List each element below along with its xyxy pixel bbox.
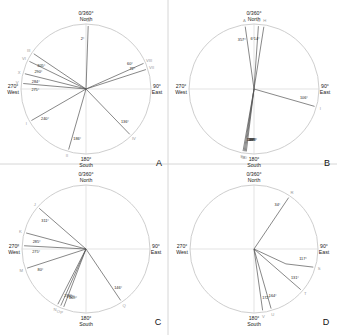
vector-line — [31, 89, 86, 121]
south-label: South — [247, 321, 261, 327]
compass-panel-a: 0/360°North180°South90°East270°WestAIX2°… — [7, 10, 163, 168]
vector-id-label: J — [34, 202, 36, 207]
vector-a-0: IX2° — [81, 18, 91, 89]
vector-angle-label: 275° — [31, 88, 39, 92]
vector-id-label: L — [17, 243, 20, 248]
vector-c-7: Q146° — [86, 249, 126, 308]
vector-id-label: E — [241, 154, 244, 159]
west-label: West — [176, 249, 188, 255]
vector-angle-label: 80° — [38, 268, 44, 272]
compass-panel-c: 0/360°North180°South90°East270°WestCJ311… — [8, 171, 162, 327]
vector-id-label: VIII — [146, 58, 152, 63]
vector-id-label: H — [263, 18, 266, 23]
vector-angle-label: 305° — [37, 64, 45, 68]
panel-letter: A — [156, 158, 162, 168]
panels-group: 0/360°North180°South90°East270°WestAIX2°… — [7, 10, 331, 327]
vector-c-4: N210° — [54, 249, 86, 312]
vector-a-3: IV136° — [86, 89, 136, 141]
rose-diagram-figure: 0/360°North180°South90°East270°WestAIX2°… — [0, 0, 337, 335]
vector-angle-label: 311° — [41, 219, 49, 223]
vector-a-4: II186° — [66, 89, 86, 158]
vector-id-label: T — [304, 291, 307, 296]
panel-letter: C — [155, 317, 162, 327]
vector-angle-label: 290° — [34, 70, 42, 74]
vector-angle-label: 172° — [262, 296, 270, 300]
vector-angle-label: 186° — [73, 137, 81, 141]
vector-id-label: VII — [149, 65, 154, 70]
north-label: North — [248, 177, 261, 183]
vector-id-label: U — [271, 312, 274, 317]
vector-a-2: VII72° — [86, 65, 154, 89]
vector-b-1: H14° — [254, 18, 267, 89]
vector-line — [86, 89, 130, 134]
vector-line — [254, 249, 263, 310]
vector-id-label: Q — [122, 303, 126, 308]
vector-b-3: I106° — [254, 89, 321, 111]
vector-id-label: V — [262, 314, 265, 319]
panel-letter: D — [323, 317, 330, 327]
vector-angle-label: 146° — [114, 286, 122, 290]
vector-angle-label: 189° — [247, 138, 255, 142]
south-label: South — [247, 162, 261, 168]
vector-id-label: I — [26, 121, 27, 126]
vector-id-label: V — [16, 80, 19, 85]
vector-id-label: P — [60, 310, 63, 315]
vector-id-label: VI — [22, 56, 26, 61]
vector-id-label: IX — [86, 18, 90, 23]
vector-id-label: C — [257, 18, 260, 23]
vector-id-label: III — [27, 48, 31, 53]
vector-id-label: K — [19, 229, 22, 234]
west-label: West — [7, 89, 19, 95]
vector-angle-label: 72° — [129, 67, 135, 71]
vector-angle-label: 60° — [127, 62, 133, 66]
vector-angle-label: 357° — [238, 38, 246, 42]
vector-angle-label: 131° — [291, 276, 299, 280]
vector-angle-label: 285° — [33, 240, 41, 244]
vector-a-1: VIII60° — [86, 58, 152, 89]
vector-c-5: O212° — [57, 249, 86, 314]
vector-line — [86, 249, 121, 300]
east-label: East — [152, 89, 163, 95]
vector-d-4: V172° — [254, 249, 270, 319]
east-label: East — [319, 249, 330, 255]
vector-angle-label: 136° — [121, 120, 129, 124]
vector-line — [254, 26, 258, 89]
vector-id-label: M — [20, 268, 24, 273]
vector-line — [254, 249, 301, 290]
panel-letter: B — [324, 158, 330, 168]
vector-id-label: II — [66, 153, 68, 158]
vector-angle-label: 209° — [69, 296, 77, 300]
vector-angle-label: 284° — [32, 80, 40, 84]
vector-angle-label: 106° — [300, 96, 308, 100]
vector-b-2: A357° — [238, 18, 254, 89]
vector-angle-label: 117° — [299, 257, 307, 261]
east-label: East — [151, 249, 162, 255]
vector-angle-label: 275° — [32, 250, 40, 254]
east-label: East — [320, 89, 331, 95]
vector-c-6: P209° — [60, 249, 86, 315]
vector-angle-label: 240° — [41, 117, 49, 121]
vector-angle-label: 34° — [275, 203, 281, 207]
south-label: South — [79, 321, 93, 327]
vector-d-1: S117° — [254, 249, 321, 271]
compass-panel-b: 0/360°North180°South90°East270°WestBC6°H… — [175, 10, 331, 168]
vector-d-0: R34° — [254, 190, 294, 249]
south-label: South — [79, 162, 93, 168]
vector-line — [86, 70, 146, 89]
vector-id-label: R — [291, 190, 294, 195]
figure-canvas: 0/360°North180°South90°East270°WestAIX2°… — [0, 0, 337, 335]
vector-angle-label: 164° — [269, 294, 277, 298]
vector-line — [86, 26, 88, 89]
vector-id-label: A — [243, 18, 246, 23]
vector-id-label: X — [18, 70, 21, 75]
vector-angle-label: 2° — [81, 37, 85, 41]
vector-b-4: D186° — [244, 89, 257, 160]
west-label: West — [8, 249, 20, 255]
vector-angle-label: 14° — [254, 37, 260, 41]
vector-id-label: S — [318, 266, 321, 271]
vector-id-label: IV — [132, 136, 136, 141]
vector-id-label: I — [320, 106, 321, 111]
compass-panel-d: 0/360°North180°South90°East270°WestDR34°… — [176, 171, 330, 327]
west-label: West — [175, 89, 187, 95]
north-label: North — [80, 177, 93, 183]
